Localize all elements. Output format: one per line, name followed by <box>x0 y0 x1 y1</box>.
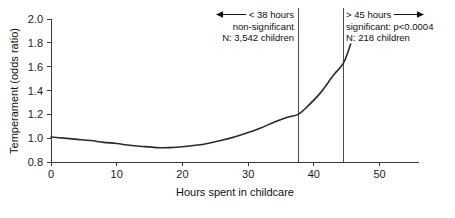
right-arrow-icon <box>394 10 424 19</box>
annotation-left-label-3: N: 3,542 children <box>198 32 294 44</box>
y-axis-title: Temperament (odds ratio) <box>8 28 20 154</box>
x-tick-label: 10 <box>111 168 123 180</box>
annotation-left-label-2: non-significant <box>198 21 294 33</box>
annotation-right-label-2: significant: p<0.0004 <box>346 21 454 33</box>
annotation-left-label-1: < 38 hours <box>249 9 294 20</box>
y-tick-label: 1.2 <box>28 108 43 120</box>
x-tick-label: 20 <box>176 168 188 180</box>
annotation-right-label-1: > 45 hours <box>346 9 391 20</box>
annotation-right-group: > 45 hours significant: p<0.0004 N: 218 … <box>346 9 454 44</box>
y-tick-label: 1.6 <box>28 61 43 73</box>
annotation-left-group: < 38 hours non-significant N: 3,542 chil… <box>198 9 294 44</box>
y-tick-label: 1.8 <box>28 37 43 49</box>
vertical-marker-group <box>298 8 343 162</box>
y-tick-label: 1.4 <box>28 85 43 97</box>
left-arrow-icon <box>216 10 246 19</box>
x-tick-label: 50 <box>373 168 385 180</box>
odds-ratio-curve <box>51 44 351 148</box>
annotation-left-line-1: < 38 hours <box>198 9 294 21</box>
x-axis-title: Hours spent in childcare <box>176 186 294 198</box>
chart-container: 0.81.01.21.41.61.82.0 01020304050 Temper… <box>0 0 455 218</box>
y-tick-label: 1.0 <box>28 132 43 144</box>
x-tick-label: 30 <box>242 168 254 180</box>
x-tick-group: 01020304050 <box>48 162 386 180</box>
annotation-right-line-1: > 45 hours <box>346 9 454 21</box>
x-tick-label: 0 <box>48 168 54 180</box>
y-tick-label: 2.0 <box>28 13 43 25</box>
y-tick-label: 0.8 <box>28 156 43 168</box>
y-tick-group: 0.81.01.21.41.61.82.0 <box>28 13 51 168</box>
annotation-right-label-3: N: 218 children <box>346 32 454 44</box>
x-tick-label: 40 <box>308 168 320 180</box>
